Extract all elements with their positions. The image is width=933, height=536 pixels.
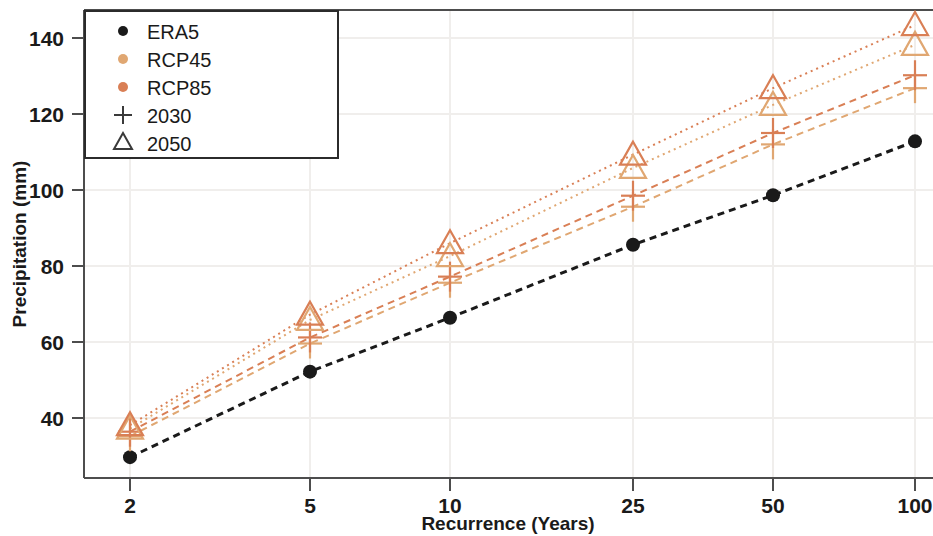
y-tick-label: 60 [41, 331, 64, 354]
x-tick-label: 100 [897, 494, 932, 517]
x-axis-ticks: 25102550100 [124, 478, 932, 517]
x-tick-label: 25 [621, 494, 645, 517]
legend-entry-label: RCP85 [147, 77, 211, 99]
legend: ERA5RCP45RCP8520302050 [85, 11, 338, 158]
y-axis-ticks: 406080100120140 [29, 27, 84, 430]
legend-marker-circle-icon [118, 82, 128, 92]
legend-entry-label: 2050 [147, 133, 192, 155]
y-tick-label: 100 [29, 179, 64, 202]
data-point-plus [903, 60, 927, 90]
data-point-circle [123, 450, 137, 464]
y-axis-label: Precipitation (mm) [9, 161, 30, 328]
legend-entry-label: RCP45 [147, 49, 211, 71]
y-tick-label: 40 [41, 407, 64, 430]
legend-marker-circle-icon [118, 26, 128, 36]
data-point-circle [766, 188, 780, 202]
x-axis-label: Recurrence (Years) [421, 513, 594, 534]
legend-marker-circle-icon [118, 54, 128, 64]
y-tick-label: 120 [29, 103, 64, 126]
data-point-circle [626, 238, 640, 252]
series-line [130, 141, 915, 457]
legend-entry-label: ERA5 [147, 21, 199, 43]
x-tick-label: 2 [124, 494, 136, 517]
data-point-circle [303, 365, 317, 379]
y-tick-label: 80 [41, 255, 64, 278]
x-tick-label: 50 [761, 494, 784, 517]
precipitation-recurrence-chart: 406080100120140 25102550100 Precipitatio… [0, 0, 933, 536]
chart-canvas: 406080100120140 25102550100 Precipitatio… [0, 0, 933, 536]
data-point-circle [443, 311, 457, 325]
data-point-circle [908, 134, 922, 148]
x-tick-label: 5 [304, 494, 316, 517]
legend-entry-label: 2030 [147, 105, 192, 127]
y-tick-label: 140 [29, 27, 64, 50]
